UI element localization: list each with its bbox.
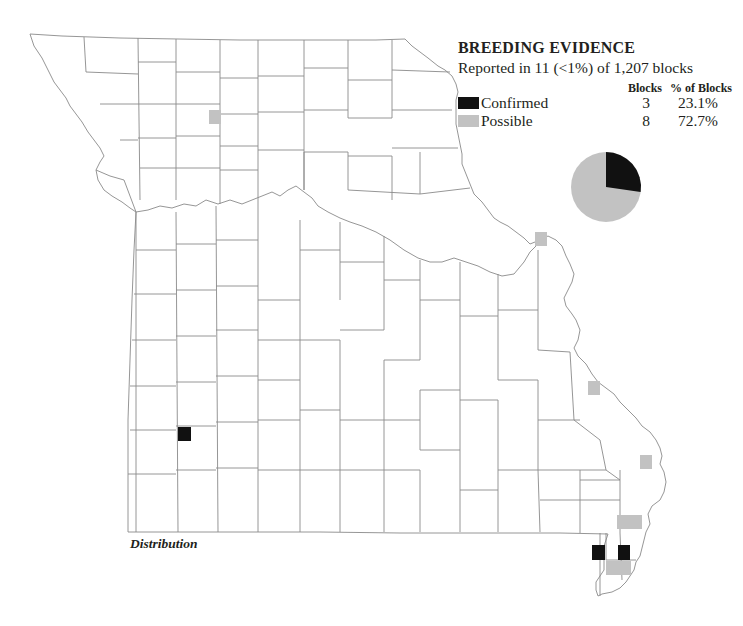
- legend-subtitle: Reported in 11 (<1%) of 1,207 blocks: [458, 58, 738, 77]
- confirmed-block-marker: [592, 545, 605, 560]
- pie-chart: [571, 152, 641, 222]
- map-caption: Distribution: [130, 536, 198, 552]
- possible-block-marker: [606, 561, 631, 575]
- confirmed-block-marker: [618, 545, 630, 560]
- legend-label: Possible: [481, 112, 533, 130]
- legend-title: BREEDING EVIDENCE: [458, 39, 738, 57]
- confirmed-block-marker: [178, 427, 191, 441]
- legend-percent: 72.7%: [656, 112, 718, 130]
- possible-block-marker: [617, 515, 642, 529]
- possible-block-marker: [535, 232, 547, 246]
- possible-block-marker: [640, 455, 652, 469]
- possible-swatch-icon: [458, 115, 479, 127]
- legend: BREEDING EVIDENCE Reported in 11 (<1%) o…: [458, 39, 738, 77]
- legend-label: Confirmed: [481, 94, 548, 112]
- legend-row-confirmed: Confirmed 3 23.1%: [458, 94, 738, 112]
- confirmed-swatch-icon: [458, 97, 479, 109]
- legend-row-possible: Possible 8 72.7%: [458, 112, 738, 130]
- pie-confirmed-slice: [606, 152, 641, 192]
- legend-percent: 23.1%: [656, 94, 718, 112]
- legend-count: 8: [638, 112, 650, 130]
- missouri-river: [96, 170, 536, 276]
- possible-block-marker: [588, 381, 600, 395]
- possible-block-marker: [209, 110, 221, 124]
- legend-count: 3: [638, 94, 650, 112]
